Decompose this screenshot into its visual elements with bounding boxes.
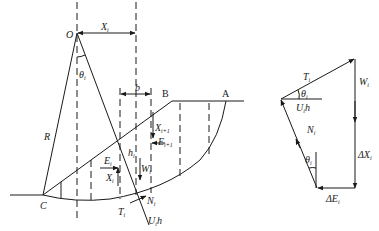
x-i-plus-1-label: Xi+1 <box>154 122 170 134</box>
delta-e-label: ΔEi <box>325 193 340 205</box>
delta-x-label: ΔXi <box>357 149 372 161</box>
e-i-label: Ei <box>103 155 112 167</box>
point-a-label: A <box>222 88 230 99</box>
n-vector <box>281 100 317 188</box>
uh-label: Uih <box>148 215 162 227</box>
radius-line <box>43 33 77 195</box>
w-label: Wi <box>359 76 369 88</box>
t-label: Ti <box>303 71 311 83</box>
force-polygon: Ti Wi θi Uih Ni θi ΔXi ΔEi <box>281 59 372 205</box>
e-i-plus-1-label: Ei+1 <box>157 136 173 148</box>
t-i-label: Ti <box>118 206 126 218</box>
theta-label: θi <box>301 88 308 100</box>
theta-arc <box>298 90 299 99</box>
uh-label: Uih <box>296 102 310 114</box>
h-i-label: hi <box>128 147 135 159</box>
w-label: Wi <box>141 163 151 175</box>
slope-figure: O B A C R Xi θi b Xi+1 Ei+1 hi Wi Ei Xi … <box>10 2 244 227</box>
n-label: Ni <box>306 124 316 136</box>
point-c-label: C <box>40 200 47 211</box>
point-b-label: B <box>162 88 169 99</box>
x-i-slice-label: Xi <box>105 172 114 184</box>
theta-arc <box>77 55 85 57</box>
theta-lower-label: θi <box>305 154 312 166</box>
point-o-label: O <box>66 29 73 40</box>
slope-stability-diagram: O B A C R Xi θi b Xi+1 Ei+1 hi Wi Ei Xi … <box>0 0 379 231</box>
t-vector <box>281 59 354 99</box>
radius-label: R <box>43 131 50 142</box>
normal-line <box>77 33 149 225</box>
theta-arc-lower <box>309 168 316 169</box>
b-label: b <box>135 82 140 93</box>
xi-label: Xi <box>100 21 109 33</box>
theta-label: θi <box>79 69 86 81</box>
n-i-label: Ni <box>146 195 156 207</box>
